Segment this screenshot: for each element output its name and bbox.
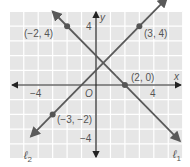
point-label-2-0: (2, 0) bbox=[131, 72, 154, 83]
y-tick-pos4: 4 bbox=[86, 21, 92, 32]
point-label-3-4: (3, 4) bbox=[144, 28, 167, 39]
data-point bbox=[64, 23, 70, 29]
data-point bbox=[136, 23, 142, 29]
point-label-neg3-neg2: (−3, −2) bbox=[57, 114, 92, 125]
x-tick-neg4: −4 bbox=[30, 88, 42, 99]
data-point bbox=[122, 82, 128, 88]
x-label: x bbox=[173, 71, 180, 82]
point-label-neg2-4: (−2, 4) bbox=[24, 28, 53, 39]
y-tick-neg4: −4 bbox=[80, 133, 92, 144]
y-label: y bbox=[99, 12, 106, 23]
coordinate-graph: x y O −4 4 4 −4 (−2, 4) (3, 4) (2, 0) (−… bbox=[0, 0, 190, 167]
origin-label: O bbox=[85, 88, 93, 99]
data-point bbox=[50, 111, 56, 117]
x-tick-pos4: 4 bbox=[150, 88, 156, 99]
